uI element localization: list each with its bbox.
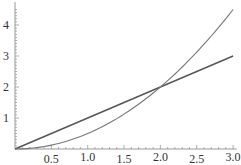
y-tick-label: 2: [3, 80, 9, 94]
y-tick-label: 1: [3, 111, 9, 125]
line-chart: 0.51.01.52.02.53.01234: [0, 0, 241, 165]
x-tick-label: 2.0: [153, 150, 168, 164]
x-tick-label: 3.0: [226, 150, 241, 164]
y-tick-label: 4: [3, 18, 9, 32]
x-tick-label: 2.5: [189, 152, 204, 165]
plot: 0.51.01.52.02.53.01234: [0, 0, 241, 165]
x-tick-label: 1.5: [117, 152, 132, 165]
x-tick-label: 0.5: [44, 152, 59, 165]
series-line-y-equals-x: [15, 56, 233, 149]
series-curve-x-squared-half: [15, 10, 233, 150]
y-tick-label: 3: [3, 49, 9, 63]
x-tick-label: 1.0: [80, 150, 95, 164]
